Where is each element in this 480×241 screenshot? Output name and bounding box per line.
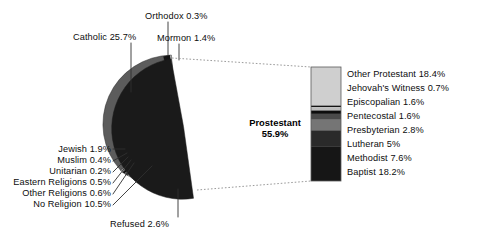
bar-segment-other-protestant [311,67,341,106]
bar-legend-lutheran: Lutheran 5% [347,139,400,150]
pie-center-label-value: 55.9% [262,128,289,139]
bar-legend-methodist: Methodist 7.6% [347,153,412,164]
pie-label-jewish: Jewish 1.9% [0,144,111,155]
bar-legend-jehovahs-witness: Jehovah's Witness 0.7% [347,83,449,94]
bar-legend-presbyterian: Presbyterian 2.8% [347,125,424,136]
pie-label-other-religions: Other Religions 0.6% [0,188,111,199]
bar-segment-lutheran [311,120,341,131]
bar-legend-other-protestant: Other Protestant 18.4% [347,69,445,80]
pie-center-label-name: Prostestant [249,117,301,128]
pie-label-muslim: Muslim 0.4% [0,155,111,166]
pie-label-mormon: Mormon 1.4% [157,33,215,44]
pie-center-label: Prostestant 55.9% [238,117,312,139]
bar-legend-episcopalian: Episcopalian 1.6% [347,97,424,108]
protestant-breakdown-bar [311,67,341,181]
bar-legend-baptist: Baptist 18.2% [347,167,405,178]
bar-segment-baptist [311,146,341,181]
connector-top [172,58,311,67]
religion-affiliation-chart: Orthodox 0.3% Mormon 1.4% Catholic 25.7%… [0,0,480,241]
bar-segment-pentecostal [311,111,341,114]
pie-label-no-religion: No Religion 10.5% [0,199,111,210]
bar-legend-pentecostal: Pentecostal 1.6% [347,111,420,122]
pie-label-orthodox: Orthodox 0.3% [145,11,208,22]
bar-segment-jehovahs-witness [311,106,341,108]
connector-bottom [197,181,311,190]
bar-segment-methodist [311,130,341,146]
bar-segment-presbyterian [311,114,341,120]
pie-label-unitarian: Unitarian 0.2% [0,166,111,177]
bar-segment-episcopalian [311,107,341,110]
pie-label-refused: Refused 2.6% [110,219,169,230]
pie-label-catholic: Catholic 25.7% [73,32,136,43]
pie-label-eastern-religions: Eastern Religions 0.5% [0,177,111,188]
